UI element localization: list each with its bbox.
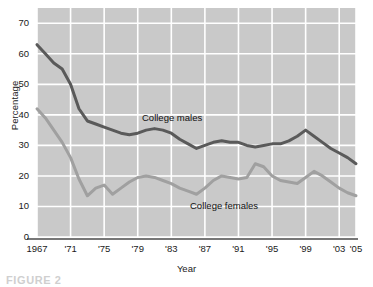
- y-tick-label: 20: [5, 171, 29, 181]
- series-label-college-males: College males: [142, 112, 202, 123]
- y-tick-label: 70: [5, 18, 29, 28]
- y-tick-label: 50: [5, 79, 29, 89]
- x-tick-label: 1967: [26, 243, 47, 254]
- y-tick-label: 10: [5, 201, 29, 211]
- series-label-college-females: College females: [190, 200, 258, 211]
- line-chart-plot: [0, 0, 373, 287]
- x-tick-label: '03: [333, 243, 345, 254]
- x-tick-label: '71: [64, 243, 76, 254]
- y-tick-label: 60: [5, 49, 29, 59]
- figure-caption: FIGURE 2: [6, 274, 62, 286]
- x-axis-title: Year: [0, 263, 373, 274]
- x-tick-label: '87: [199, 243, 211, 254]
- y-tick-label: 40: [5, 110, 29, 120]
- x-tick-label: '05: [350, 243, 362, 254]
- y-tick-label: 30: [5, 140, 29, 150]
- y-tick-label: 0: [5, 232, 29, 242]
- x-tick-label: '91: [232, 243, 244, 254]
- x-tick-label: '75: [98, 243, 110, 254]
- x-tick-label: '83: [165, 243, 177, 254]
- x-tick-label: '79: [132, 243, 144, 254]
- x-tick-label: '99: [299, 243, 311, 254]
- figure-container: Percentage Year 010203040506070 1967'71'…: [0, 0, 373, 287]
- x-tick-label: '95: [266, 243, 278, 254]
